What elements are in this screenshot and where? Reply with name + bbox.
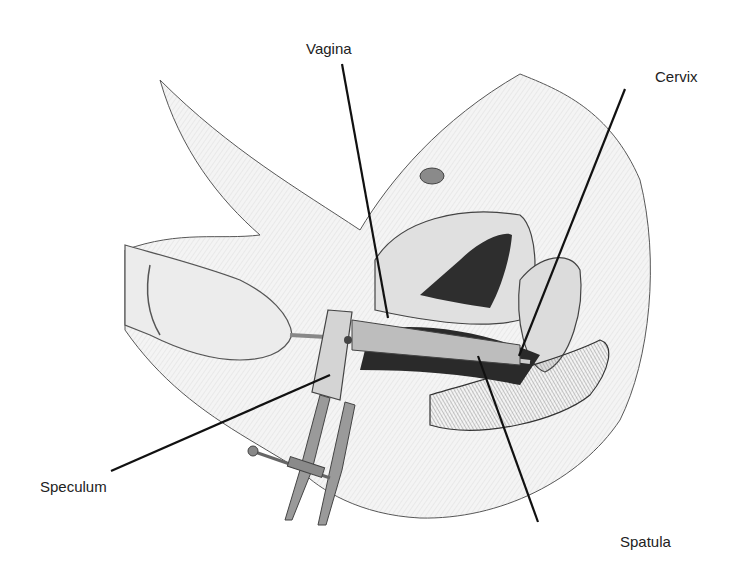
- label-speculum: Speculum: [40, 478, 107, 495]
- anatomy-diagram: Vagina Cervix Speculum Spatula: [0, 0, 752, 580]
- label-spatula: Spatula: [620, 533, 671, 550]
- label-vagina: Vagina: [306, 40, 352, 57]
- label-cervix: Cervix: [655, 68, 698, 85]
- illustration: [0, 0, 752, 580]
